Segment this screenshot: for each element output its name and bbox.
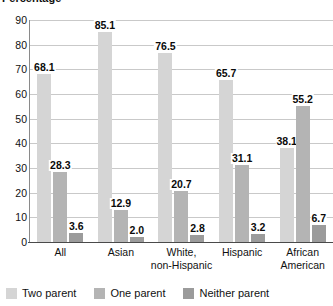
bar-value-label: 20.7 xyxy=(170,179,192,190)
plot-area: 68.128.33.685.112.92.076.520.72.865.731.… xyxy=(30,20,333,242)
bar xyxy=(235,165,249,242)
y-tick-label-80: 80 xyxy=(1,39,27,51)
x-category-label-line: American xyxy=(281,259,325,272)
x-category-label-line: White, xyxy=(151,246,212,259)
legend-swatch-icon xyxy=(6,288,17,299)
bar xyxy=(158,53,172,242)
bar xyxy=(190,235,204,242)
y-tick-label-30: 30 xyxy=(1,162,27,174)
bar-value-label: 65.7 xyxy=(215,68,237,79)
x-category-label-line: Asian xyxy=(108,246,134,259)
legend-swatch-icon xyxy=(183,288,194,299)
legend-item[interactable]: One parent xyxy=(94,287,165,299)
bar-value-label: 55.2 xyxy=(291,94,313,105)
x-category-label-line: Hispanic xyxy=(222,246,262,259)
bar-value-label: 31.1 xyxy=(231,153,253,164)
x-axis-line xyxy=(28,242,333,243)
bar xyxy=(312,225,326,242)
bar-value-label: 85.1 xyxy=(94,20,116,31)
bar-group: 38.155.26.7 xyxy=(272,20,333,242)
bar-value-label: 2.8 xyxy=(189,223,206,234)
bar-group: 65.731.13.2 xyxy=(212,20,273,242)
y-tick-label-40: 40 xyxy=(1,137,27,149)
x-category-label-line: African xyxy=(281,246,325,259)
bar-value-label: 6.7 xyxy=(310,213,327,224)
y-tick-label-90: 90 xyxy=(1,14,27,26)
bar-value-label: 2.0 xyxy=(129,225,146,236)
x-category-label-line: non-Hispanic xyxy=(151,259,212,272)
x-category-label: White,non-Hispanic xyxy=(151,246,212,271)
y-tick-label-50: 50 xyxy=(1,113,27,125)
bar xyxy=(296,106,310,242)
bar-group: 85.112.92.0 xyxy=(91,20,152,242)
bar xyxy=(280,148,294,242)
x-category-label: Hispanic xyxy=(222,246,262,259)
bar-value-label: 12.9 xyxy=(110,198,132,209)
legend-item[interactable]: Two parent xyxy=(6,287,76,299)
bar-value-label: 3.2 xyxy=(250,222,267,233)
y-tick-label-60: 60 xyxy=(1,88,27,100)
x-category-label: All xyxy=(54,246,66,259)
bar-value-label: 3.6 xyxy=(68,221,85,232)
y-tick-label-10: 10 xyxy=(1,211,27,223)
bar-value-label: 38.1 xyxy=(275,136,297,147)
bar xyxy=(251,234,265,242)
bar-value-label: 76.5 xyxy=(154,41,176,52)
bar xyxy=(174,191,188,242)
bar xyxy=(69,233,83,242)
bar-group: 76.520.72.8 xyxy=(151,20,212,242)
legend-label: Neither parent xyxy=(199,287,269,299)
x-category-label-line: All xyxy=(54,246,66,259)
bar-value-label: 68.1 xyxy=(33,62,55,73)
legend-item[interactable]: Neither parent xyxy=(183,287,269,299)
y-tick-label-20: 20 xyxy=(1,187,27,199)
bar-value-label: 28.3 xyxy=(49,160,71,171)
legend-label: One parent xyxy=(110,287,165,299)
bar xyxy=(53,172,67,242)
bar-group: 68.128.33.6 xyxy=(30,20,91,242)
x-axis-category-labels: AllAsianWhite,non-HispanicHispanicAfrica… xyxy=(0,246,333,280)
chart-legend: Two parentOne parentNeither parent xyxy=(6,285,287,301)
bar xyxy=(114,210,128,242)
bar xyxy=(98,32,112,242)
bar-chart: Percentage 9080706050403020100 68.128.33… xyxy=(0,0,333,306)
bar xyxy=(37,74,51,242)
legend-swatch-icon xyxy=(94,288,105,299)
legend-label: Two parent xyxy=(22,287,76,299)
x-category-label: AfricanAmerican xyxy=(281,246,325,271)
y-tick-label-70: 70 xyxy=(1,63,27,75)
x-category-label: Asian xyxy=(108,246,134,259)
